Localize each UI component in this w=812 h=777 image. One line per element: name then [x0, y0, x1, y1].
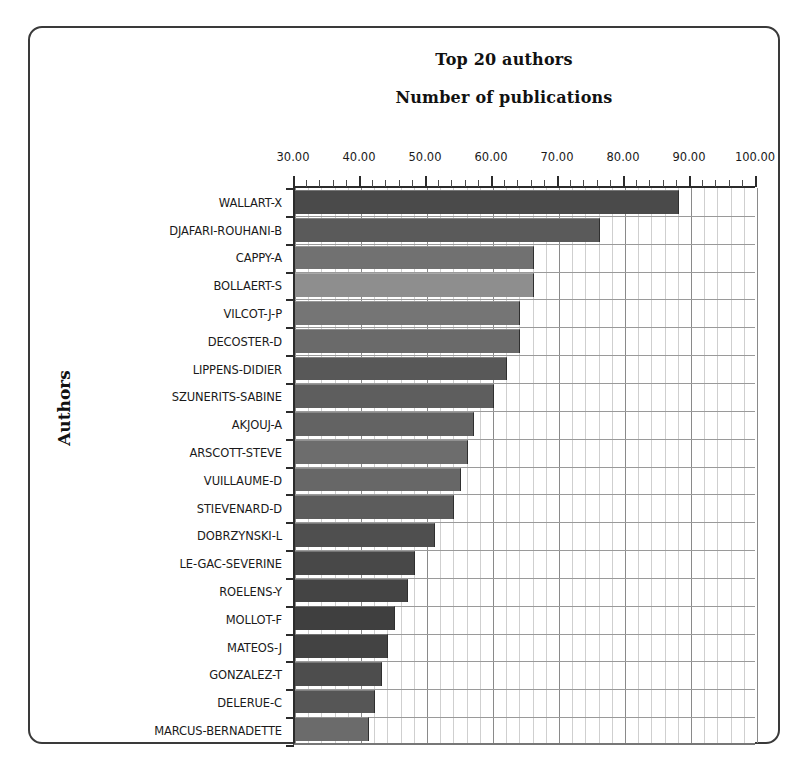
category-label: STIEVENARD-D	[90, 495, 290, 523]
chart-frame: Top 20 authors Number of publications Au…	[28, 26, 780, 744]
x-minor-tick	[438, 180, 439, 187]
bar[interactable]	[295, 523, 435, 547]
bar[interactable]	[295, 218, 600, 242]
category-label: AKJOUJ-A	[90, 411, 290, 439]
category-label: WALLART-X	[90, 189, 290, 217]
x-tick-label: 90.00	[673, 150, 706, 164]
bar[interactable]	[295, 690, 375, 714]
bar-series	[295, 188, 755, 743]
category-label: DELERUE-C	[90, 689, 290, 717]
bar[interactable]	[295, 468, 461, 492]
bar[interactable]	[295, 329, 520, 353]
x-major-tick	[359, 176, 361, 187]
x-minor-tick	[333, 180, 334, 187]
x-minor-tick	[385, 180, 386, 187]
bar-row	[295, 715, 755, 743]
gridline-major	[757, 188, 758, 743]
bar-row	[295, 549, 755, 577]
bar[interactable]	[295, 301, 520, 325]
x-minor-tick	[306, 180, 307, 187]
category-label: MATEOS-J	[90, 634, 290, 662]
x-minor-tick	[319, 180, 320, 187]
x-tick-label: 40.00	[343, 150, 376, 164]
x-tick-label: 60.00	[475, 150, 508, 164]
category-label: DJAFARI-ROUHANI-B	[90, 217, 290, 245]
y-axis-tick	[286, 745, 294, 747]
bar-row	[295, 577, 755, 605]
category-label: DECOSTER-D	[90, 328, 290, 356]
x-minor-tick	[451, 180, 452, 187]
x-minor-tick	[346, 180, 347, 187]
x-minor-tick	[412, 180, 413, 187]
category-label: VUILLAUME-D	[90, 467, 290, 495]
x-axis-ruler	[293, 174, 755, 188]
x-major-tick	[557, 176, 559, 187]
bar-row	[295, 521, 755, 549]
category-label: LE-GAC-SEVERINE	[90, 550, 290, 578]
bar[interactable]	[295, 273, 534, 297]
category-label: VILCOT-J-P	[90, 300, 290, 328]
bar-row	[295, 688, 755, 716]
bar[interactable]	[295, 662, 382, 686]
bar[interactable]	[295, 579, 408, 603]
x-minor-tick	[531, 180, 532, 187]
category-label: LIPPENS-DIDIER	[90, 356, 290, 384]
bar[interactable]	[295, 246, 534, 270]
bar[interactable]	[295, 551, 415, 575]
x-minor-tick	[610, 180, 611, 187]
x-tick-label: 30.00	[277, 150, 310, 164]
x-minor-tick	[517, 180, 518, 187]
bar[interactable]	[295, 190, 679, 214]
category-axis-labels: WALLART-XDJAFARI-ROUHANI-BCAPPY-ABOLLAER…	[90, 189, 290, 745]
bar-row	[295, 493, 755, 521]
x-minor-tick	[570, 180, 571, 187]
x-minor-tick	[478, 180, 479, 187]
bar[interactable]	[295, 384, 494, 408]
chart-subtitle: Number of publications	[230, 88, 778, 107]
category-label: ROELENS-Y	[90, 578, 290, 606]
bar[interactable]	[295, 717, 369, 741]
bar-row	[295, 382, 755, 410]
bar-row	[295, 410, 755, 438]
x-major-tick	[689, 176, 691, 187]
category-label: SZUNERITS-SABINE	[90, 384, 290, 412]
x-minor-tick	[742, 180, 743, 187]
bar-row	[295, 466, 755, 494]
bar[interactable]	[295, 495, 454, 519]
x-minor-tick	[715, 180, 716, 187]
x-major-tick	[293, 176, 295, 187]
category-label: DOBRZYNSKI-L	[90, 523, 290, 551]
bar[interactable]	[295, 412, 474, 436]
bar-row	[295, 660, 755, 688]
x-tick-label: 70.00	[541, 150, 574, 164]
bar[interactable]	[295, 606, 395, 630]
x-minor-tick	[583, 180, 584, 187]
bar-row	[295, 216, 755, 244]
x-minor-tick	[372, 180, 373, 187]
bar-row	[295, 188, 755, 216]
bar-row	[295, 327, 755, 355]
category-label: MOLLOT-F	[90, 606, 290, 634]
x-axis-tick-labels: 30.0040.0050.0060.0070.0080.0090.00100.0…	[293, 150, 755, 168]
bar[interactable]	[295, 357, 507, 381]
bar-row	[295, 438, 755, 466]
bar[interactable]	[295, 634, 388, 658]
chart-title: Top 20 authors	[230, 50, 778, 69]
bar-row	[295, 299, 755, 327]
x-minor-tick	[544, 180, 545, 187]
bar-row	[295, 244, 755, 272]
category-label: ARSCOTT-STEVE	[90, 439, 290, 467]
bar[interactable]	[295, 440, 468, 464]
x-minor-tick	[729, 180, 730, 187]
x-minor-tick	[504, 180, 505, 187]
x-minor-tick	[399, 180, 400, 187]
plot-area	[293, 188, 755, 745]
category-label: BOLLAERT-S	[90, 272, 290, 300]
x-major-tick	[755, 176, 757, 187]
x-tick-label: 50.00	[409, 150, 442, 164]
x-major-tick	[491, 176, 493, 187]
bar-row	[295, 271, 755, 299]
bar-row	[295, 632, 755, 660]
bar-row	[295, 604, 755, 632]
x-minor-tick	[597, 180, 598, 187]
